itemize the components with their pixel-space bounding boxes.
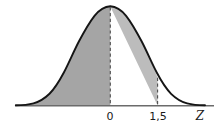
x-axis-label-z: Z bbox=[190, 110, 210, 123]
shaded-area-below-zero bbox=[16, 6, 111, 105]
x-tick-label-zero: 0 bbox=[98, 110, 122, 123]
shaded-area-zero-to-1-5 bbox=[110, 6, 157, 105]
x-tick-label-one-point-five: 1,5 bbox=[144, 110, 172, 123]
normal-distribution-figure: 0 1,5 Z bbox=[0, 0, 214, 128]
distribution-plot-svg bbox=[0, 0, 214, 128]
